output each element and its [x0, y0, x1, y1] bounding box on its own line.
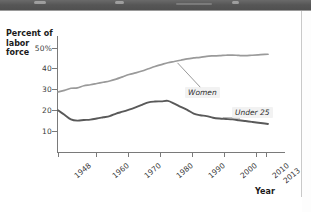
leader-line-women	[178, 63, 201, 88]
header-mark-1	[34, 1, 46, 4]
series-label-women: Women	[185, 87, 220, 98]
line-series-women	[58, 54, 268, 92]
chart-page: Percent of labor force 50% 40 30 20 10 1…	[0, 0, 311, 212]
page-margin	[302, 11, 311, 212]
header-mark-3	[176, 3, 212, 5]
series-lines	[0, 11, 301, 197]
header-mark-2	[115, 1, 124, 4]
header-mark-4	[232, 1, 239, 4]
series-label-under-25: Under 25	[232, 107, 273, 118]
page-edge-rule	[301, 11, 302, 197]
plot-area: Percent of labor force 50% 40 30 20 10 1…	[0, 11, 301, 197]
scan-header-band	[0, 0, 311, 11]
